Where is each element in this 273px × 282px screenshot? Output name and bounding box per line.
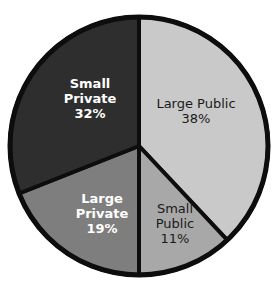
pie-chart-canvas bbox=[0, 0, 273, 282]
pie-chart: Large Public 38% Small Private 32% Large… bbox=[0, 0, 273, 282]
